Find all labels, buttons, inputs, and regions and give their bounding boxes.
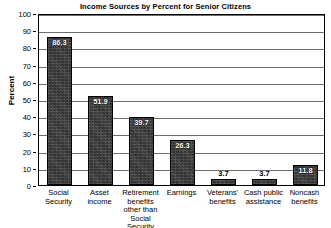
bar-value-label: 3.7 bbox=[211, 169, 236, 178]
y-tick-label: 50 bbox=[1, 96, 31, 105]
x-category-label: Earnings bbox=[161, 189, 202, 198]
x-category-label: Cash publicassistance bbox=[243, 189, 284, 206]
bar-slot: 3.7 bbox=[211, 15, 236, 185]
chart-container: Income Sources by Percent for Senior Cit… bbox=[0, 0, 331, 228]
bar-slot: 39.7 bbox=[129, 15, 154, 185]
x-category-line: income bbox=[79, 198, 120, 207]
x-category-line: Social Security bbox=[120, 215, 161, 228]
bar[interactable] bbox=[129, 117, 154, 185]
x-category-label: Veterans'benefits bbox=[202, 189, 243, 206]
bar[interactable] bbox=[47, 37, 72, 185]
bar[interactable] bbox=[88, 96, 113, 185]
x-category-label: Retirementbenefitsother thanSocial Secur… bbox=[120, 189, 161, 228]
bar-slot: 51.9 bbox=[88, 15, 113, 185]
y-tick-label: 60 bbox=[1, 78, 31, 87]
y-tick-mark bbox=[33, 100, 36, 101]
bar-value-label: 86.3 bbox=[47, 38, 72, 47]
chart-title: Income Sources by Percent for Senior Cit… bbox=[0, 2, 331, 11]
x-category-line: Security bbox=[38, 198, 79, 207]
bar-value-label: 51.9 bbox=[88, 97, 113, 106]
y-tick-mark bbox=[33, 31, 36, 32]
bar-value-label: 3.7 bbox=[252, 169, 277, 178]
bar-slot: 26.3 bbox=[170, 15, 195, 185]
y-tick-label: 80 bbox=[1, 44, 31, 53]
y-tick-mark bbox=[33, 14, 36, 15]
y-tick-label: 10 bbox=[1, 164, 31, 173]
x-category-line: Earnings bbox=[161, 189, 202, 198]
y-tick-mark bbox=[33, 152, 36, 153]
y-tick-label: 30 bbox=[1, 130, 31, 139]
y-axis-ticks: 0102030405060708090100 bbox=[0, 0, 38, 228]
bars-layer: 86.351.939.726.33.73.711.8 bbox=[39, 15, 324, 185]
y-tick-label: 100 bbox=[1, 10, 31, 19]
y-tick-label: 0 bbox=[1, 182, 31, 191]
y-tick-mark bbox=[33, 66, 36, 67]
y-tick-mark bbox=[33, 186, 36, 187]
y-tick-mark bbox=[33, 169, 36, 170]
x-axis-labels: SocialSecurityAssetincomeRetirementbenef… bbox=[38, 189, 325, 228]
y-tick-label: 70 bbox=[1, 61, 31, 70]
x-category-label: Noncashbenefits bbox=[284, 189, 325, 206]
y-tick-label: 20 bbox=[1, 147, 31, 156]
bar-value-label: 39.7 bbox=[129, 118, 154, 127]
bar[interactable] bbox=[252, 179, 277, 185]
bar-slot: 3.7 bbox=[252, 15, 277, 185]
x-category-label: SocialSecurity bbox=[38, 189, 79, 206]
bar-value-label: 26.3 bbox=[170, 141, 195, 150]
x-category-line: benefits bbox=[284, 198, 325, 207]
y-tick-mark bbox=[33, 117, 36, 118]
y-tick-label: 40 bbox=[1, 113, 31, 122]
y-tick-mark bbox=[33, 48, 36, 49]
y-tick-label: 90 bbox=[1, 27, 31, 36]
bar[interactable] bbox=[211, 179, 236, 185]
y-tick-mark bbox=[33, 134, 36, 135]
bar-slot: 11.8 bbox=[293, 15, 318, 185]
bar-slot: 86.3 bbox=[47, 15, 72, 185]
plot-area: 86.351.939.726.33.73.711.8 bbox=[38, 14, 325, 186]
x-category-line: benefits bbox=[202, 198, 243, 207]
y-tick-mark bbox=[33, 83, 36, 84]
x-category-label: Assetincome bbox=[79, 189, 120, 206]
x-category-line: assistance bbox=[243, 198, 284, 207]
bar-value-label: 11.8 bbox=[293, 166, 318, 175]
